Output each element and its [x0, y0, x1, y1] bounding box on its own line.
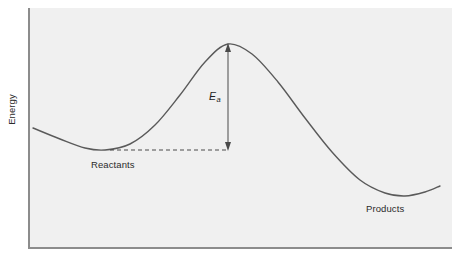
energy-diagram-figure: Energy Reactants Products Ea [0, 0, 460, 265]
energy-profile-curve [33, 44, 440, 196]
reactants-label: Reactants [91, 159, 135, 170]
products-label: Products [366, 203, 404, 214]
curve-svg [0, 0, 460, 265]
activation-energy-subscript: a [216, 95, 220, 104]
activation-energy-label: Ea [209, 90, 220, 102]
